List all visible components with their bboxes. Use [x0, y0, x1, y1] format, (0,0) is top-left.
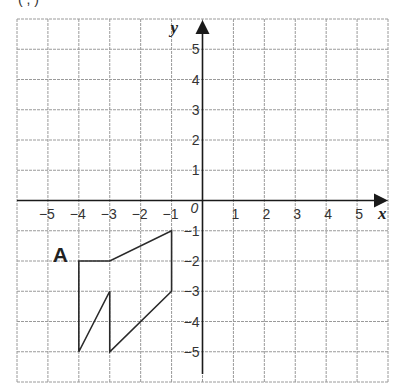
x-tick-label: −3: [101, 206, 117, 222]
axis-labels: −5−4−3−2−11234554321−1−2−3−4−50xy: [39, 18, 387, 360]
y-tick-label: 5: [192, 41, 200, 57]
x-tick-label: 2: [262, 206, 270, 222]
x-tick-label: 3: [293, 206, 301, 222]
x-tick-label: 1: [232, 206, 240, 222]
y-tick-label: −2: [184, 253, 200, 269]
x-tick-label: −1: [163, 206, 179, 222]
x-axis-label: x: [377, 204, 387, 223]
x-tick-label: 5: [355, 206, 363, 222]
axes: [17, 20, 388, 374]
shape-label: A: [53, 243, 68, 266]
y-tick-label: −3: [184, 283, 200, 299]
y-tick-label: 4: [192, 72, 200, 88]
y-tick-label: −1: [184, 223, 200, 239]
x-tick-label: −4: [70, 206, 86, 222]
y-tick-label: −4: [184, 314, 200, 330]
y-tick-label: 3: [192, 102, 200, 118]
origin-label: 0: [191, 200, 199, 216]
y-tick-label: 1: [192, 162, 200, 178]
y-axis-label: y: [169, 18, 179, 37]
x-tick-label: 4: [324, 206, 332, 222]
y-tick-label: 2: [192, 132, 200, 148]
x-tick-label: −2: [132, 206, 148, 222]
y-axis-arrow-icon: [196, 20, 210, 34]
coordinate-grid: −5−4−3−2−11234554321−1−2−3−4−50xy A: [0, 0, 405, 392]
x-tick-label: −5: [39, 206, 55, 222]
y-tick-label: −5: [184, 344, 200, 360]
